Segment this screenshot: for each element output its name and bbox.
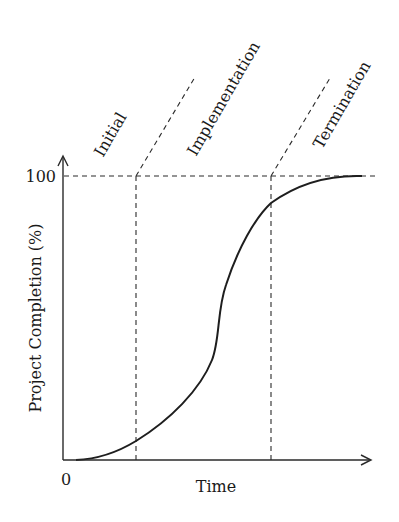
y-tick-100: 100 [25,167,56,186]
x-axis-label: Time [196,477,236,496]
phase-label-implementation: Implementation [183,38,264,159]
origin-label: 0 [61,470,71,489]
y-axis-label: Project Completion (%) [26,223,45,412]
initial-diagonal-line [136,77,195,176]
s-curve-chart: 100 0 Time Project Completion (%) Initia… [0,0,399,522]
s-curve-line [76,176,362,460]
phase-label-termination: Termination [309,57,375,152]
phase-label-initial: Initial [90,109,130,160]
